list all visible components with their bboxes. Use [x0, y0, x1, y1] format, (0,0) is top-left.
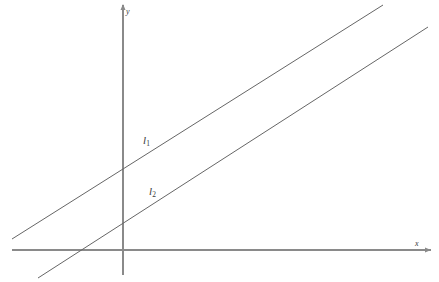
line-label-l1-subscript: 1: [146, 139, 150, 148]
line-label-l2-subscript: 2: [152, 190, 156, 199]
y-axis-group: [121, 4, 126, 275]
x-axis-group: [12, 247, 431, 252]
x-axis-label: x: [415, 240, 419, 248]
figure-canvas: [0, 0, 439, 282]
y-axis-arrow-icon: [121, 4, 126, 10]
line-label-l1: l1: [143, 135, 150, 146]
geometry-figure: y x l1 l2: [0, 0, 439, 282]
y-axis-label: y: [126, 8, 130, 16]
x-axis-arrow-icon: [425, 247, 431, 252]
line-label-l2: l2: [149, 186, 156, 197]
line-l1: [12, 5, 383, 239]
line-l2: [38, 27, 428, 278]
